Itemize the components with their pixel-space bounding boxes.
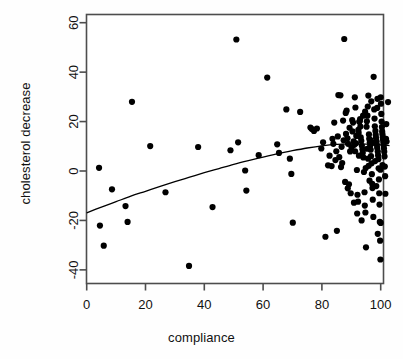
data-point bbox=[314, 125, 320, 131]
data-point bbox=[354, 167, 360, 173]
x-axis-ticks bbox=[87, 284, 381, 291]
data-point bbox=[287, 156, 293, 162]
x-axis-title: compliance bbox=[0, 330, 403, 345]
data-point bbox=[352, 94, 358, 100]
x-tick-label: 60 bbox=[256, 297, 270, 312]
data-point bbox=[358, 217, 364, 223]
data-point bbox=[186, 263, 192, 269]
y-axis-title: cholesterol decrease bbox=[18, 14, 33, 274]
data-point bbox=[383, 121, 389, 127]
data-point bbox=[341, 36, 347, 42]
data-point bbox=[233, 36, 239, 42]
data-point bbox=[109, 186, 115, 192]
x-tick-label: 40 bbox=[197, 297, 211, 312]
data-point bbox=[376, 202, 382, 208]
data-point bbox=[363, 165, 369, 171]
data-point bbox=[352, 104, 358, 110]
data-point bbox=[379, 162, 385, 168]
data-point bbox=[264, 74, 270, 80]
data-point bbox=[370, 197, 376, 203]
data-point bbox=[364, 146, 370, 152]
data-point bbox=[290, 220, 296, 226]
data-point bbox=[343, 131, 349, 137]
data-point bbox=[326, 153, 332, 159]
data-point bbox=[356, 153, 362, 159]
data-point bbox=[370, 214, 376, 220]
data-point bbox=[242, 167, 248, 173]
y-tick-label: -40 bbox=[66, 260, 81, 279]
data-point bbox=[235, 139, 241, 145]
data-point bbox=[361, 189, 367, 195]
data-point bbox=[297, 109, 303, 115]
data-point bbox=[339, 160, 345, 166]
data-point bbox=[342, 179, 348, 185]
data-point bbox=[365, 156, 371, 162]
x-tick-label: 80 bbox=[315, 297, 329, 312]
data-point bbox=[209, 204, 215, 210]
data-point bbox=[363, 124, 369, 130]
data-point bbox=[331, 119, 337, 125]
data-point bbox=[383, 138, 389, 144]
data-point bbox=[374, 105, 380, 111]
data-point bbox=[97, 223, 103, 229]
data-point bbox=[357, 123, 363, 129]
y-tick-label: -20 bbox=[66, 211, 81, 230]
data-point bbox=[341, 137, 347, 143]
y-tick-label: 60 bbox=[66, 15, 81, 29]
plot-canvas: -40-200204060 020406080100 bbox=[0, 0, 403, 359]
data-point bbox=[101, 243, 107, 249]
data-point bbox=[378, 220, 384, 226]
data-point bbox=[227, 147, 233, 153]
data-point bbox=[373, 183, 379, 189]
data-point bbox=[122, 203, 128, 209]
data-point bbox=[362, 109, 368, 115]
data-point bbox=[288, 171, 294, 177]
data-point bbox=[329, 136, 335, 142]
data-point bbox=[382, 173, 388, 179]
x-tick-label: 0 bbox=[83, 297, 90, 312]
data-point bbox=[365, 93, 371, 99]
data-point bbox=[374, 96, 380, 102]
data-point bbox=[349, 128, 355, 134]
data-point bbox=[96, 165, 102, 171]
data-point bbox=[333, 148, 339, 154]
data-point bbox=[335, 133, 341, 139]
data-point bbox=[345, 185, 351, 191]
data-point bbox=[362, 203, 368, 209]
data-point bbox=[243, 187, 249, 193]
data-point bbox=[322, 234, 328, 240]
data-point bbox=[344, 108, 350, 114]
data-point bbox=[354, 210, 360, 216]
data-point bbox=[378, 111, 384, 117]
data-point bbox=[371, 116, 377, 122]
data-point bbox=[337, 92, 343, 98]
data-point bbox=[350, 119, 356, 125]
scatter-plot-figure: -40-200204060 020406080100 compliance ch… bbox=[0, 0, 403, 359]
x-tick-label: 20 bbox=[138, 297, 152, 312]
data-point bbox=[274, 141, 280, 147]
y-axis-ticks bbox=[80, 23, 87, 270]
data-point bbox=[124, 219, 130, 225]
data-point bbox=[320, 139, 326, 145]
data-point bbox=[195, 144, 201, 150]
data-point bbox=[382, 191, 388, 197]
data-point bbox=[354, 192, 360, 198]
data-point bbox=[362, 209, 368, 215]
data-point bbox=[385, 99, 391, 105]
data-point bbox=[351, 200, 357, 206]
data-point bbox=[377, 238, 383, 244]
data-point bbox=[364, 118, 370, 124]
data-point bbox=[372, 158, 378, 164]
y-axis-tick-labels: -40-200204060 bbox=[66, 15, 81, 279]
plot-frame bbox=[87, 15, 384, 284]
x-axis-tick-labels: 020406080100 bbox=[83, 297, 391, 312]
data-point bbox=[376, 176, 382, 182]
data-point bbox=[129, 99, 135, 105]
y-tick-label: 20 bbox=[66, 114, 81, 128]
data-point bbox=[340, 117, 346, 123]
data-point bbox=[368, 98, 374, 104]
data-point bbox=[375, 231, 381, 237]
data-point bbox=[381, 153, 387, 159]
data-point bbox=[336, 154, 342, 160]
data-point bbox=[376, 190, 382, 196]
